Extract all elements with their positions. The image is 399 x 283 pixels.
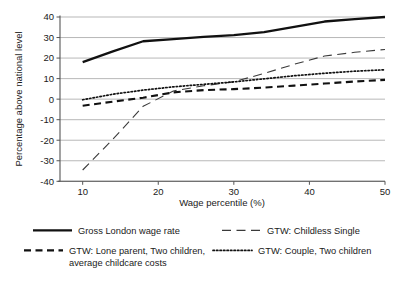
- legend-label: Gross London wage rate: [78, 226, 180, 236]
- x-tick-label: 30: [229, 186, 240, 197]
- legend-label: GTW: Couple, Two children: [258, 246, 371, 256]
- y-tick-label: -10: [40, 114, 54, 125]
- x-tick-label: 50: [380, 186, 391, 197]
- y-tick-label: -40: [40, 176, 54, 187]
- y-tick-labels: -40-30-20-10010203040: [40, 11, 54, 186]
- legend-label: GTW: Lone parent, Two children,: [69, 246, 205, 256]
- figure-container: -40-30-20-10010203040 1020304050 Wage pe…: [0, 0, 399, 283]
- plot-background: [60, 17, 385, 180]
- y-tick-label: 20: [43, 52, 54, 63]
- x-tick-label: 10: [77, 186, 88, 197]
- y-tick-label: 30: [43, 32, 54, 43]
- line-chart: -40-30-20-10010203040 1020304050 Wage pe…: [0, 0, 399, 283]
- x-tick-labels: 1020304050: [77, 186, 390, 197]
- y-tick-label: 0: [49, 94, 54, 105]
- y-tick-label: 40: [43, 11, 54, 22]
- y-tick-label: 10: [43, 73, 54, 84]
- y-tick-label: -30: [40, 155, 54, 166]
- y-axis-title: Percentage above national level: [13, 31, 24, 166]
- y-tick-label: -20: [40, 135, 54, 146]
- chart-legend: Gross London wage rateGTW: Childless Sin…: [24, 226, 371, 268]
- legend-label: GTW: Childless Single: [267, 226, 360, 236]
- x-axis-title: Wage percentile (%): [179, 197, 265, 208]
- x-tick-label: 40: [304, 186, 315, 197]
- x-tick-label: 20: [153, 186, 164, 197]
- legend-label-continued: average childcare costs: [69, 258, 167, 268]
